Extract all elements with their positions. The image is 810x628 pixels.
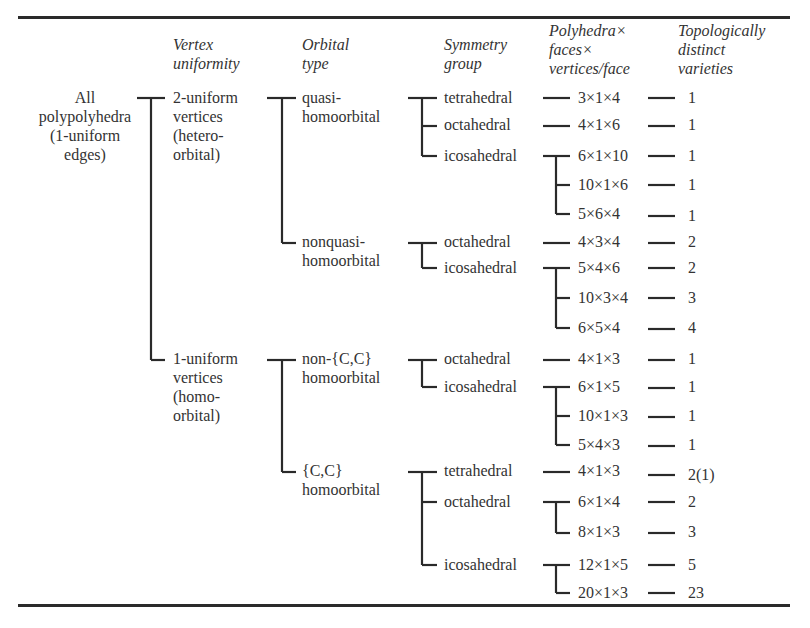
- row-varieties-16: 5: [688, 555, 696, 574]
- row-varieties-10: 1: [688, 377, 696, 396]
- row-varieties-13: 2(1): [688, 465, 715, 484]
- row-polyhedra-9: 4×1×3: [578, 349, 620, 368]
- bottom-rule: [18, 604, 790, 607]
- row-varieties-8: 4: [688, 318, 696, 337]
- row-polyhedra-10: 6×1×5: [578, 377, 620, 396]
- row-polyhedra-15: 8×1×3: [578, 522, 620, 541]
- header-symmetry-group: Symmetrygroup: [444, 35, 507, 73]
- row-symmetry-0: tetrahedral: [444, 88, 512, 107]
- root-node: Allpolypolyhedra(1-uniformedges): [20, 88, 150, 164]
- row-varieties-6: 2: [688, 258, 696, 277]
- orbital-noncc: non-{C,C}homoorbital: [302, 349, 380, 387]
- header-orbital-type: Orbitaltype: [302, 35, 349, 73]
- row-symmetry-14: octahedral: [444, 492, 511, 511]
- row-varieties-3: 1: [688, 175, 696, 194]
- row-varieties-4: 1: [688, 206, 696, 225]
- row-symmetry-2: icosahedral: [444, 146, 517, 165]
- top-rule: [18, 16, 790, 19]
- row-symmetry-5: octahedral: [444, 232, 511, 251]
- vertex-2-uniform: 2-uniformvertices(hetero-orbital): [173, 88, 238, 164]
- row-polyhedra-6: 5×4×6: [578, 258, 620, 277]
- row-varieties-2: 1: [688, 146, 696, 165]
- row-polyhedra-16: 12×1×5: [578, 555, 628, 574]
- row-varieties-1: 1: [688, 115, 696, 134]
- row-polyhedra-7: 10×3×4: [578, 288, 628, 307]
- orbital-cc: {C,C}homoorbital: [302, 461, 380, 499]
- row-polyhedra-3: 10×1×6: [578, 175, 628, 194]
- row-varieties-7: 3: [688, 288, 696, 307]
- row-polyhedra-12: 5×4×3: [578, 435, 620, 454]
- row-varieties-5: 2: [688, 232, 696, 251]
- row-polyhedra-8: 6×5×4: [578, 318, 620, 337]
- row-symmetry-9: octahedral: [444, 349, 511, 368]
- row-varieties-14: 2: [688, 492, 696, 511]
- row-polyhedra-2: 6×1×10: [578, 146, 628, 165]
- row-symmetry-13: tetrahedral: [444, 461, 512, 480]
- header-varieties: Topologicallydistinctvarieties: [678, 21, 765, 78]
- row-polyhedra-13: 4×1×3: [578, 461, 620, 480]
- row-polyhedra-11: 10×1×3: [578, 406, 628, 425]
- row-symmetry-10: icosahedral: [444, 377, 517, 396]
- row-symmetry-6: icosahedral: [444, 258, 517, 277]
- row-varieties-15: 3: [688, 522, 696, 541]
- row-symmetry-1: octahedral: [444, 115, 511, 134]
- vertex-1-uniform: 1-uniformvertices(homo-orbital): [173, 349, 238, 425]
- orbital-quasi: quasi-homoorbital: [302, 88, 380, 126]
- row-varieties-17: 23: [688, 583, 704, 602]
- orbital-nonquasi: nonquasi-homoorbital: [302, 232, 380, 270]
- header-vertex-uniformity: Vertexuniformity: [173, 35, 240, 73]
- row-polyhedra-5: 4×3×4: [578, 232, 620, 251]
- header-polyhedra: Polyhedra×faces×vertices/face: [549, 21, 630, 78]
- row-polyhedra-0: 3×1×4: [578, 88, 620, 107]
- row-polyhedra-14: 6×1×4: [578, 492, 620, 511]
- row-varieties-11: 1: [688, 406, 696, 425]
- row-polyhedra-17: 20×1×3: [578, 583, 628, 602]
- row-varieties-9: 1: [688, 349, 696, 368]
- row-symmetry-16: icosahedral: [444, 555, 517, 574]
- row-varieties-0: 1: [688, 88, 696, 107]
- row-polyhedra-4: 5×6×4: [578, 204, 620, 223]
- row-polyhedra-1: 4×1×6: [578, 115, 620, 134]
- row-varieties-12: 1: [688, 435, 696, 454]
